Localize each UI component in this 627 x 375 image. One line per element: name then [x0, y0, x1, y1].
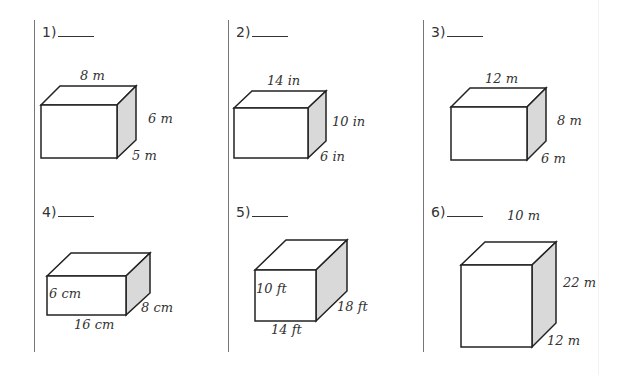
- dimension-label-top: 10 m: [507, 208, 540, 223]
- dimension-label-depth: 12 m: [547, 333, 580, 348]
- dimension-label-side: 22 m: [563, 275, 596, 290]
- rectangular-prism-figure: [0, 0, 627, 375]
